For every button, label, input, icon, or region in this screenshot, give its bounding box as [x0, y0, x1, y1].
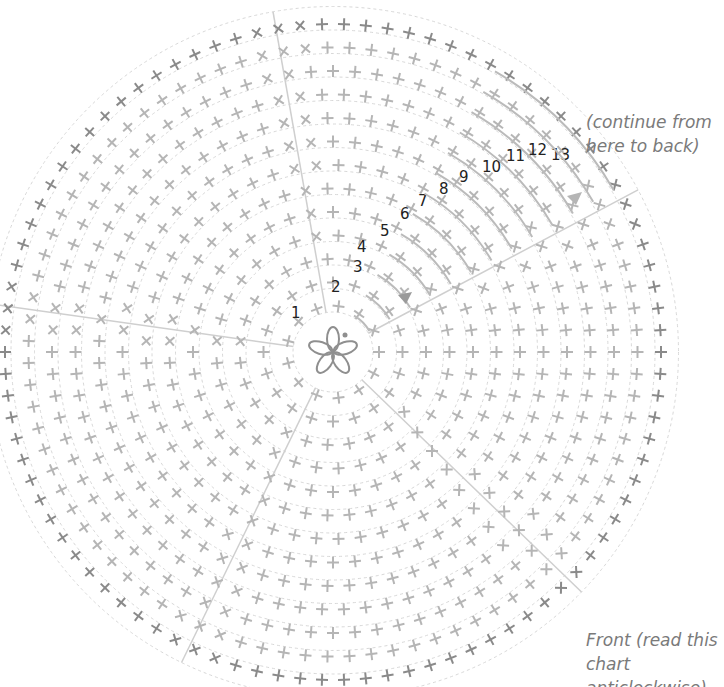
stitch-icon	[392, 366, 407, 381]
stitch-icon	[218, 85, 234, 101]
round-number: 5	[380, 222, 390, 240]
stitch-icon	[595, 529, 612, 546]
stitch-icon	[148, 620, 165, 637]
stitch-icon	[112, 248, 128, 264]
stitch-icon	[172, 137, 189, 154]
stitch-icon	[219, 468, 236, 485]
stitch-icon	[154, 150, 171, 167]
stitch-icon	[477, 481, 501, 505]
stitch-icon	[608, 346, 620, 358]
stitch-icon	[159, 116, 176, 133]
stitch-icon	[164, 249, 180, 265]
stitch-icon	[247, 23, 267, 43]
stitch-icon	[520, 539, 544, 563]
stitch-icon	[381, 668, 395, 682]
stitch-icon	[130, 80, 147, 97]
increase-spoke	[362, 380, 582, 592]
stitch-icon	[448, 623, 464, 639]
stitch-icon	[76, 410, 91, 425]
stitch-icon	[103, 134, 120, 151]
stitch-icon	[321, 182, 333, 194]
stitch-icon	[70, 367, 83, 380]
stitch-icon	[373, 450, 389, 466]
stitch-icon	[467, 75, 483, 91]
stitch-icon	[64, 501, 80, 517]
stitch-icon	[302, 133, 321, 152]
round-number: 2	[331, 278, 341, 296]
stitch-icon	[343, 579, 356, 592]
stitch-icon	[234, 356, 247, 369]
stitch-icon	[433, 85, 449, 101]
stitch-icon	[258, 346, 270, 358]
stitch-icon	[233, 54, 248, 69]
stitch-icon	[332, 229, 345, 242]
stitch-icon	[434, 496, 451, 513]
stitch-icon	[97, 509, 114, 526]
stitch-icon	[121, 228, 137, 244]
stitch-icon	[225, 186, 242, 203]
stitch-icon	[366, 365, 382, 381]
stitch-icon	[381, 385, 398, 402]
stitch-icon	[268, 385, 285, 402]
stitch-icon	[233, 635, 248, 650]
stitch-icon	[119, 119, 136, 136]
stitch-icon	[237, 482, 254, 499]
stitch-icon	[111, 488, 128, 505]
stitch-icon	[332, 300, 345, 313]
stitch-icon	[207, 198, 224, 215]
stitch-icon	[327, 557, 339, 569]
stitch-icon	[185, 320, 204, 339]
stitch-icon	[23, 216, 39, 232]
stitch-icon	[133, 258, 149, 274]
stitch-icon	[85, 197, 102, 214]
stitch-icon	[133, 478, 150, 495]
stitch-icon	[304, 278, 319, 293]
stitch-icon	[164, 439, 180, 455]
stitch-icon	[247, 293, 264, 310]
stitch-icon	[585, 452, 601, 468]
stitch-icon	[420, 439, 444, 463]
stitch-icon	[268, 303, 285, 320]
stitch-icon	[347, 278, 362, 293]
stitch-icon	[342, 437, 356, 451]
stitch-icon	[426, 133, 442, 149]
stitch-icon	[278, 263, 294, 279]
stitch-icon	[81, 564, 98, 581]
stitch-icon	[201, 514, 218, 531]
stitch-icon	[125, 409, 140, 424]
stitch-icon	[291, 87, 310, 106]
stitch-icon	[178, 104, 195, 121]
stitch-icon	[635, 237, 650, 252]
stitch-icon	[327, 416, 339, 428]
stitch-icon	[287, 528, 301, 542]
stitch-icon	[359, 601, 372, 614]
stitch-icon	[209, 624, 231, 646]
stitch-icon	[354, 530, 368, 544]
stitch-icon	[81, 124, 98, 141]
stitch-icon	[482, 56, 498, 72]
stitch-icon	[277, 646, 291, 660]
stitch-icon	[146, 192, 163, 209]
stitch-icon	[556, 235, 578, 257]
stitch-icon	[207, 489, 224, 506]
stitch-icon	[444, 346, 456, 358]
stitch-icon	[401, 591, 416, 606]
stitch-icon	[220, 162, 236, 178]
stitch-icon	[154, 269, 170, 285]
stitch-icon	[154, 92, 171, 109]
round-join-arc	[401, 234, 451, 284]
stitch-icon	[543, 259, 559, 275]
stitch-icon	[627, 301, 641, 315]
stitch-icon	[420, 346, 432, 358]
stitch-icon	[209, 114, 225, 130]
stitch-icon	[462, 496, 486, 520]
stitch-icon	[248, 256, 265, 273]
stitch-icon	[453, 94, 469, 110]
stitch-icon	[348, 207, 362, 221]
stitch-icon	[259, 323, 274, 338]
stitch-icon	[423, 31, 438, 46]
stitch-icon	[161, 176, 178, 193]
stitch-icon	[391, 618, 405, 632]
stitch-icon	[415, 508, 431, 524]
stitch-icon	[550, 469, 566, 485]
